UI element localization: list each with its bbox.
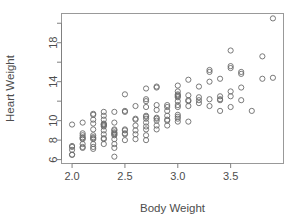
x-tick-label: 3.5 <box>223 170 238 182</box>
data-point <box>122 92 127 97</box>
data-point <box>133 128 138 133</box>
data-point <box>122 138 127 143</box>
data-point <box>186 119 191 124</box>
data-point <box>112 154 117 159</box>
data-point <box>101 141 106 146</box>
data-point <box>154 107 159 112</box>
x-tick-label: 3.0 <box>170 170 185 182</box>
chart-canvas: 681014182.02.53.03.5Body WeightHeart Wei… <box>0 0 291 222</box>
y-tick-label: 6 <box>48 157 60 163</box>
data-point <box>175 83 180 88</box>
data-point <box>270 16 275 21</box>
data-point <box>260 76 265 81</box>
data-point <box>186 77 191 82</box>
data-point <box>133 103 138 108</box>
data-point <box>228 94 233 99</box>
x-axis: 2.02.53.03.5 <box>64 164 238 182</box>
x-axis-title: Body Weight <box>140 202 206 214</box>
y-tick-label: 10 <box>48 115 60 127</box>
data-point <box>165 123 170 128</box>
data-point <box>154 123 159 128</box>
data-point <box>143 86 148 91</box>
data-point <box>143 133 148 138</box>
data-point <box>112 120 117 125</box>
data-point <box>186 93 191 98</box>
x-tick-label: 2.5 <box>117 170 132 182</box>
data-point <box>217 76 222 81</box>
data-point <box>143 104 148 109</box>
y-tick-label: 8 <box>48 137 60 143</box>
data-point <box>112 109 117 114</box>
data-point <box>239 98 244 103</box>
data-point <box>207 79 212 84</box>
data-point <box>69 122 74 127</box>
data-point <box>228 48 233 53</box>
scatter-plot-figure: 681014182.02.53.03.5Body WeightHeart Wei… <box>0 0 291 222</box>
y-tick-label: 14 <box>48 76 60 88</box>
data-point <box>80 120 85 125</box>
data-point <box>260 54 265 59</box>
data-point <box>270 75 275 80</box>
data-point <box>249 108 254 113</box>
y-axis: 68101418 <box>48 23 62 162</box>
data-points-group <box>69 16 275 160</box>
y-tick-label: 18 <box>48 37 60 49</box>
data-point <box>112 141 117 146</box>
data-point <box>228 104 233 109</box>
data-point <box>133 123 138 128</box>
data-point <box>154 102 159 107</box>
y-axis-title: Heart Weight <box>4 54 16 122</box>
data-point <box>91 127 96 132</box>
data-point <box>101 109 106 114</box>
data-point <box>207 103 212 108</box>
data-point <box>196 84 201 89</box>
data-point <box>207 97 212 102</box>
data-point <box>239 85 244 90</box>
data-point <box>217 108 222 113</box>
x-tick-label: 2.0 <box>64 170 79 182</box>
data-point <box>228 89 233 94</box>
